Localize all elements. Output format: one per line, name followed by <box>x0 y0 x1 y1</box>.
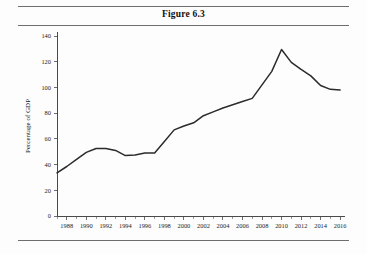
page-rule-bottom <box>18 240 349 241</box>
x-axis-ticks: 1988199019921994199619982000200220042006… <box>57 216 347 229</box>
x-tick-label: 2000 <box>178 222 191 229</box>
x-tick-label: 2012 <box>295 222 308 229</box>
y-tick-label: 80 <box>45 109 51 116</box>
y-tick-label: 140 <box>41 32 51 39</box>
line-chart: 020406080100120140 198819901992199419961… <box>0 26 367 238</box>
page-title: Figure 6.3 <box>0 9 367 19</box>
x-tick-label: 2010 <box>275 222 288 229</box>
y-tick-label: 100 <box>41 84 51 91</box>
data-series-line <box>57 50 340 173</box>
y-axis-title: Percentage of GDP <box>24 99 32 153</box>
y-tick-label: 40 <box>45 161 51 168</box>
y-tick-label: 20 <box>45 187 51 194</box>
x-tick-label: 2016 <box>334 222 347 229</box>
x-tick-label: 2006 <box>236 222 249 229</box>
figure-page: Figure 6.3 020406080100120140 1988199019… <box>0 0 367 254</box>
y-tick-label: 60 <box>45 135 51 142</box>
title-rule-top <box>18 6 349 7</box>
x-tick-label: 1988 <box>60 222 73 229</box>
x-tick-label: 1990 <box>80 222 93 229</box>
y-tick-label: 120 <box>41 58 51 65</box>
x-tick-label: 1994 <box>119 222 133 229</box>
y-tick-label: 0 <box>48 212 51 219</box>
y-axis-ticks: 020406080100120140 <box>41 32 57 219</box>
x-tick-label: 2002 <box>197 222 210 229</box>
x-tick-label: 1998 <box>158 222 171 229</box>
x-tick-label: 2008 <box>256 222 269 229</box>
x-tick-label: 1992 <box>99 222 112 229</box>
x-tick-label: 2014 <box>314 222 328 229</box>
x-tick-label: 1996 <box>138 222 151 229</box>
chart-container: 020406080100120140 198819901992199419961… <box>0 26 367 238</box>
x-tick-label: 2004 <box>217 222 231 229</box>
